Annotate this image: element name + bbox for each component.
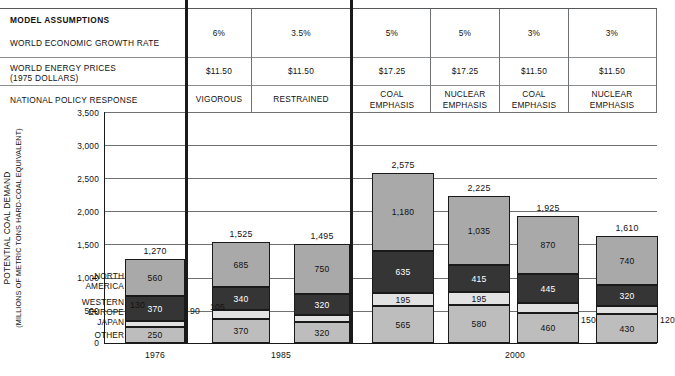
y-axis-title-line2: (MILLIONS OF METRIC TONS HARD-COAL EQUIV… xyxy=(13,112,24,344)
table-border-right xyxy=(656,9,657,113)
assumptions-row-growth: MODEL ASSUMPTIONS WORLD ECONOMIC GROWTH … xyxy=(0,9,657,57)
cell-policy-3: COAL EMPHASIS xyxy=(355,86,429,113)
stacked-bar-chart: POTENTIAL COAL DEMAND (MILLIONS OF METRI… xyxy=(0,112,657,356)
bar-total-2000-coal-1: 2,575 xyxy=(372,160,434,170)
cell-price-4: $17.25 xyxy=(431,58,499,85)
y-axis-title-line1: POTENTIAL COAL DEMAND xyxy=(2,112,13,344)
segment-other-2000-coal-2: 460 xyxy=(517,313,579,343)
plot-area: NORTH AMERICA WESTERN EUROPE JAPAN OTHER… xyxy=(104,112,657,344)
bar-total-1985-vigorous: 1,525 xyxy=(212,229,270,239)
bar-total-1976: 1,270 xyxy=(125,246,185,256)
chart-divider-2000 xyxy=(350,0,353,344)
cell-price-5: $11.50 xyxy=(500,58,568,85)
ytick-3000: 3,000 xyxy=(69,141,99,151)
segment-japan-2000-coal-1: 195 xyxy=(372,293,434,306)
ytick-2000: 2,000 xyxy=(69,207,99,217)
segment-japan-2000-coal-2 xyxy=(517,303,579,313)
bar-1985-restrained: 1,495 750 320 320 xyxy=(294,244,350,343)
segment-japan-2000-nuclear-2 xyxy=(596,306,658,314)
bar-total-2000-coal-2: 1,925 xyxy=(517,203,579,213)
bar-2000-nuclear-1: 2,225 1,035 415 195 580 xyxy=(448,196,510,343)
legend-western-europe-line2: EUROPE xyxy=(56,308,124,318)
row-label-growth-rate: WORLD ECONOMIC GROWTH RATE xyxy=(10,38,159,49)
cell-policy-6: NUCLEAR EMPHASIS xyxy=(569,86,655,113)
cell-policy-5-line2: EMPHASIS xyxy=(512,100,556,111)
segment-other-1985-vigorous: 370 xyxy=(212,319,270,343)
segment-japan-2000-nuclear-1: 195 xyxy=(448,292,510,305)
segment-north-america-2000-nuclear-1: 1,035 xyxy=(448,196,510,265)
segment-other-2000-coal-1: 565 xyxy=(372,306,434,343)
x-axis-label-1985: 1985 xyxy=(212,350,350,360)
japan-callout-1985-restrained: 105 xyxy=(210,302,225,312)
segment-other-1976: 250 xyxy=(125,327,185,343)
table-divider-col4 xyxy=(430,9,431,113)
segment-other-2000-nuclear-1: 580 xyxy=(448,305,510,343)
segment-western-europe-2000-coal-2: 445 xyxy=(517,274,579,303)
segment-north-america-2000-nuclear-2: 740 xyxy=(596,236,658,285)
bar-total-2000-nuclear-1: 2,225 xyxy=(448,183,510,193)
cell-policy-5-line1: COAL xyxy=(512,89,556,100)
cell-price-3: $17.25 xyxy=(355,58,429,85)
row-label-policy-response: NATIONAL POLICY RESPONSE xyxy=(10,95,138,106)
segment-western-europe-1985-restrained: 320 xyxy=(294,294,350,315)
model-assumptions-table: MODEL ASSUMPTIONS WORLD ECONOMIC GROWTH … xyxy=(0,8,657,112)
row-label-energy-prices-line2: (1975 DOLLARS) xyxy=(10,73,79,84)
segment-north-america-1985-restrained: 750 xyxy=(294,244,350,294)
segment-north-america-1985-vigorous: 685 xyxy=(212,242,270,287)
cell-policy-6-line2: EMPHASIS xyxy=(590,100,634,111)
cell-growth-3: 5% xyxy=(355,9,429,57)
bar-1985-vigorous: 1,525 685 340 370 xyxy=(212,242,270,343)
segment-north-america-2000-coal-2: 870 xyxy=(517,216,579,274)
cell-policy-5: COAL EMPHASIS xyxy=(500,86,568,113)
legend-other: OTHER xyxy=(56,331,124,341)
table-divider-col5 xyxy=(499,9,500,113)
bar-total-1985-restrained: 1,495 xyxy=(294,231,350,241)
bar-total-2000-nuclear-2: 1,610 xyxy=(596,223,658,233)
cell-policy-4: NUCLEAR EMPHASIS xyxy=(431,86,499,113)
cell-growth-5: 3% xyxy=(500,9,568,57)
cell-policy-4-line2: EMPHASIS xyxy=(443,100,487,111)
segment-other-2000-nuclear-2: 430 xyxy=(596,314,658,343)
cell-policy-3-line2: EMPHASIS xyxy=(370,100,414,111)
segment-north-america-1976: 560 xyxy=(125,259,185,296)
assumptions-row-prices: WORLD ENERGY PRICES (1975 DOLLARS) $11.5… xyxy=(0,57,657,85)
legend-north-america: NORTH AMERICA xyxy=(56,272,124,291)
segment-japan-1985-restrained xyxy=(294,315,350,322)
cell-growth-6: 3% xyxy=(569,9,655,57)
cell-growth-4: 5% xyxy=(431,9,499,57)
cell-policy-3-line1: COAL xyxy=(370,89,414,100)
cell-policy-1-line1: VIGOROUS xyxy=(196,94,242,105)
legend-north-america-line2: AMERICA xyxy=(56,282,124,292)
segment-western-europe-2000-nuclear-1: 415 xyxy=(448,265,510,292)
cell-policy-2-line1: RESTRAINED xyxy=(273,94,328,105)
cell-policy-2: RESTRAINED xyxy=(255,86,347,113)
x-axis-label-2000: 2000 xyxy=(372,350,658,360)
legend-japan: JAPAN xyxy=(56,318,124,328)
cell-policy-4-line1: NUCLEAR xyxy=(443,89,487,100)
bar-2000-coal-1: 2,575 1,180 635 195 565 xyxy=(372,173,434,343)
cell-growth-1: 6% xyxy=(189,9,249,57)
legend-western-europe: WESTERN EUROPE xyxy=(56,298,124,317)
ytick-3500: 3,500 xyxy=(69,108,99,118)
cell-policy-1: VIGOROUS xyxy=(189,86,249,113)
table-divider-col2 xyxy=(251,9,252,113)
segment-western-europe-2000-coal-1: 635 xyxy=(372,251,434,293)
japan-callout-1976: 90 xyxy=(190,306,200,316)
bar-2000-coal-2: 1,925 870 445 460 xyxy=(517,216,579,343)
japan-callout-2000-nuclear-2: 120 xyxy=(660,315,675,325)
cell-price-2: $11.50 xyxy=(255,58,347,85)
segment-other-1985-restrained: 320 xyxy=(294,322,350,343)
cell-price-6: $11.50 xyxy=(569,58,655,85)
chart-divider-1976 xyxy=(185,0,188,344)
japan-callout-2000-coal-2: 150 xyxy=(581,315,596,325)
x-axis-label-1976: 1976 xyxy=(125,350,185,360)
ytick-1500: 1,500 xyxy=(69,240,99,250)
ytick-2500: 2,500 xyxy=(69,174,99,184)
cell-price-1: $11.50 xyxy=(189,58,249,85)
y-axis-title-sub: (MILLIONS OF METRIC TONS HARD-COAL EQUIV… xyxy=(13,112,37,344)
table-divider-col6 xyxy=(568,9,569,113)
segment-western-europe-2000-nuclear-2: 320 xyxy=(596,285,658,306)
japan-callout-1985-vigorous: 130 xyxy=(130,300,145,310)
cell-policy-6-line1: NUCLEAR xyxy=(590,89,634,100)
